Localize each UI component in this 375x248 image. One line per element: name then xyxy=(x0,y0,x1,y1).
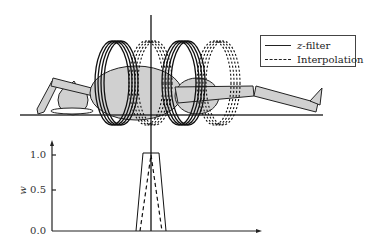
legend-label: Interpolation xyxy=(297,54,363,65)
patient-figure xyxy=(37,66,322,120)
ytick-label-0: 0.0 xyxy=(20,225,46,236)
x-axis-arrow-icon xyxy=(256,229,262,233)
legend-label: -filter xyxy=(302,40,330,51)
solid-line-icon xyxy=(265,45,291,46)
legend-item-interpolation: Interpolation xyxy=(265,52,363,66)
legend: z-filter Interpolation xyxy=(260,35,356,67)
y-axis-arrow-icon xyxy=(50,140,54,146)
weight-plot xyxy=(50,140,262,233)
dashed-line-icon xyxy=(265,59,291,60)
ytick-label-1: 1.0 xyxy=(20,149,46,160)
y-axis-label: w xyxy=(17,186,28,195)
pillow xyxy=(51,108,93,114)
legend-item-z-filter: z-filter xyxy=(265,38,330,52)
patient-lower-leg xyxy=(254,86,318,112)
